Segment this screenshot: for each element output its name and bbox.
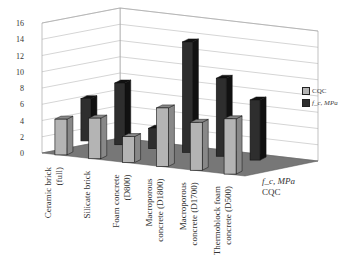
depth-label-front: CQC xyxy=(262,187,295,198)
x-tick-label: Macroporousconcrete (D1800) xyxy=(144,178,165,242)
chart-container: 0246810121416Ceramic brick(full)Silicate… xyxy=(0,0,362,275)
y-tick-label: 0 xyxy=(20,149,24,158)
legend-swatch-icon xyxy=(302,99,310,107)
legend-swatch-icon xyxy=(302,87,310,95)
svg-text:Thermoblock foam: Thermoblock foam xyxy=(212,186,222,255)
bar-fc-side xyxy=(260,97,266,160)
bar-cqc xyxy=(156,108,168,166)
x-tick-label: Thermoblock foamconcrete (D500) xyxy=(212,186,233,255)
svg-text:Silicate brick: Silicate brick xyxy=(82,170,92,218)
bar-cqc-side xyxy=(67,116,73,155)
bar-chart-3d: 0246810121416Ceramic brick(full)Silicate… xyxy=(0,0,362,275)
bar-cqc xyxy=(55,119,67,155)
depth-axis-labels: f_c, MPa CQC xyxy=(262,176,295,198)
bar-cqc-side xyxy=(101,115,107,159)
x-tick-label: Macroporousconcrete (D1700) xyxy=(178,182,199,246)
svg-text:concrete (D500): concrete (D500) xyxy=(223,186,233,245)
bar-cqc-side xyxy=(135,134,141,163)
svg-text:Foam concrete: Foam concrete xyxy=(111,175,121,228)
x-tick-label: Ceramic brick(full) xyxy=(43,166,64,218)
x-tick-label: Silicate brick xyxy=(82,170,92,218)
svg-text:Ceramic brick: Ceramic brick xyxy=(43,166,53,218)
legend-item-cqc: CQC xyxy=(302,85,338,97)
bar-cqc-side xyxy=(236,116,242,174)
y-tick-label: 6 xyxy=(20,100,24,109)
bar-fc xyxy=(115,83,125,145)
y-tick-label: 14 xyxy=(16,35,24,44)
bar-cqc-side xyxy=(202,119,208,170)
y-tick-label: 12 xyxy=(16,52,24,61)
legend: CQC f_c, MPa xyxy=(302,85,338,109)
bar-cqc xyxy=(123,137,135,163)
bar-cqc xyxy=(89,118,101,159)
y-tick-label: 10 xyxy=(16,68,24,77)
bar-fc xyxy=(250,100,260,160)
legend-item-fc: f_c, MPa xyxy=(302,97,338,109)
bar-cqc xyxy=(190,122,202,170)
svg-text:concrete (D1800): concrete (D1800) xyxy=(155,178,165,241)
y-tick-label: 8 xyxy=(20,84,24,93)
svg-text:concrete (D1700): concrete (D1700) xyxy=(189,182,199,245)
svg-text:Macroporous: Macroporous xyxy=(178,182,188,230)
bar-cqc-side xyxy=(168,105,174,167)
y-tick-label: 4 xyxy=(20,117,24,126)
y-tick-label: 2 xyxy=(20,133,24,142)
svg-text:Macroporous: Macroporous xyxy=(144,178,154,226)
depth-label-back: f_c, MPa xyxy=(262,176,295,187)
bar-cqc xyxy=(224,119,236,174)
svg-text:(D800): (D800) xyxy=(122,175,132,201)
y-tick-label: 16 xyxy=(16,19,24,28)
x-tick-label: Foam concrete(D800) xyxy=(111,175,132,228)
svg-text:(full): (full) xyxy=(54,167,64,186)
